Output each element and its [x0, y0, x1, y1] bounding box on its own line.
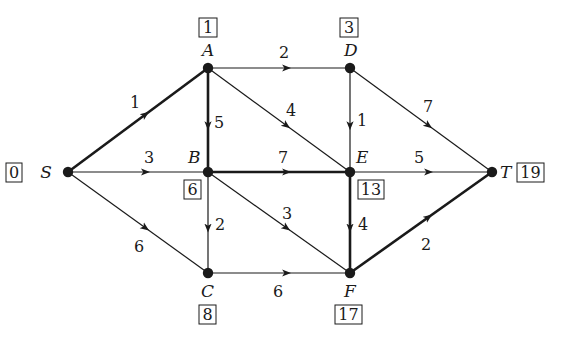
node-f: F17	[335, 268, 362, 324]
node-label: C	[201, 281, 214, 301]
node-dot	[345, 63, 355, 73]
node-d: D3	[340, 18, 358, 73]
edge-weight: 6	[273, 282, 283, 301]
node-label: A	[200, 40, 214, 60]
node-t: T19	[487, 162, 544, 182]
node-dot	[203, 63, 213, 73]
edge-s-a	[68, 68, 208, 172]
earliest-time-value: 0	[9, 163, 19, 182]
earliest-time-value: 19	[520, 163, 540, 182]
node-dot	[203, 268, 213, 278]
edge-weight: 1	[357, 111, 367, 130]
earliest-time-value: 8	[202, 305, 212, 324]
node-label: D	[343, 40, 358, 60]
edge-weight: 6	[134, 237, 144, 256]
edge-weight: 3	[144, 148, 154, 167]
critical-path-graph: 136254177235462 S0A1D3B6E13T19C8F17	[0, 0, 561, 342]
node-s: S0	[6, 162, 73, 182]
earliest-time-value: 3	[344, 18, 354, 37]
edge-weight: 5	[214, 113, 224, 132]
node-c: C8	[199, 268, 216, 324]
earliest-time-value: 13	[361, 180, 381, 199]
edge-b-f	[208, 172, 350, 273]
node-label: F	[343, 281, 357, 301]
edge-weight: 1	[130, 93, 140, 112]
node-label: T	[500, 162, 513, 182]
edge-weight: 4	[358, 215, 368, 234]
node-dot	[345, 268, 355, 278]
edge-weight: 2	[421, 235, 431, 254]
node-label: S	[40, 162, 52, 182]
edge-weight: 3	[282, 204, 292, 223]
node-label: E	[355, 147, 369, 167]
edge-weight: 2	[215, 215, 225, 234]
edge-weight: 7	[423, 97, 433, 116]
edge-weight: 5	[414, 148, 424, 167]
node-dot	[487, 167, 497, 177]
node-dot	[345, 167, 355, 177]
earliest-time-value: 6	[187, 180, 197, 199]
edge-weight: 2	[279, 43, 289, 62]
node-dot	[203, 167, 213, 177]
node-a: A1	[199, 18, 217, 73]
edge-weight: 7	[278, 148, 288, 167]
edge-weight: 4	[286, 101, 296, 120]
node-dot	[63, 167, 73, 177]
earliest-time-value: 17	[338, 305, 358, 324]
node-label: B	[187, 147, 201, 167]
earliest-time-value: 1	[203, 18, 213, 37]
